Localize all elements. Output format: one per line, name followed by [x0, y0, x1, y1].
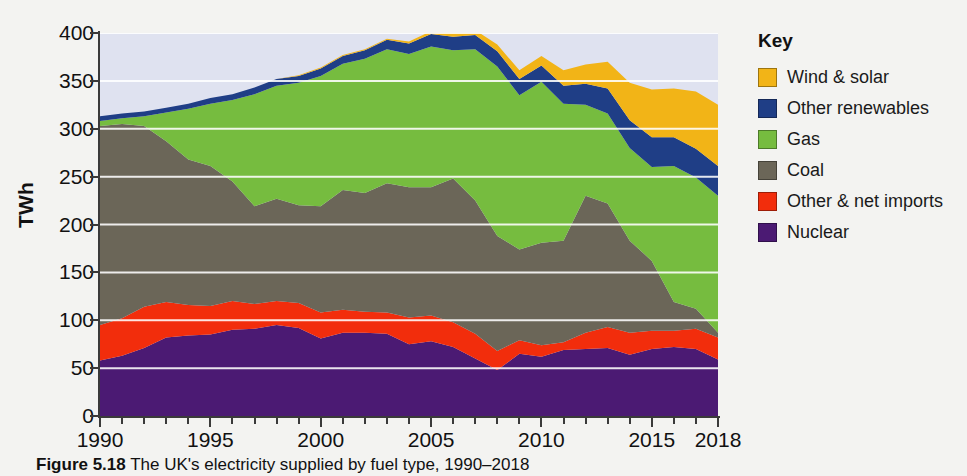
x-tickmark-2008	[496, 418, 498, 424]
y-tickmark-50	[90, 367, 99, 369]
x-tickmark-2013	[607, 418, 609, 424]
legend-item-other-net-imports: Other & net imports	[758, 186, 963, 217]
y-tickmark-200	[90, 224, 99, 226]
x-tickmark-2006	[452, 418, 454, 424]
x-tickmark-2001	[342, 418, 344, 424]
y-tick-250: 250	[36, 165, 94, 189]
x-tickmark-1991	[121, 418, 123, 424]
x-tickmark-1999	[298, 418, 300, 424]
legend-title: Key	[758, 30, 963, 52]
legend-item-coal: Coal	[758, 155, 963, 186]
y-tickmark-150	[90, 271, 99, 273]
x-tickmark-2005	[430, 418, 432, 427]
x-tickmark-2012	[585, 418, 587, 424]
y-tickmark-100	[90, 319, 99, 321]
x-tick-2018: 2018	[695, 428, 742, 452]
legend-swatch-icon	[758, 99, 777, 118]
figure-number: Figure 5.18	[36, 455, 126, 474]
x-tickmark-2015	[651, 418, 653, 427]
x-tickmark-2009	[518, 418, 520, 424]
y-tickmark-0	[90, 415, 99, 417]
x-tickmark-2016	[673, 418, 675, 424]
legend-swatch-icon	[758, 161, 777, 180]
x-tick-1990: 1990	[77, 428, 124, 452]
y-tickmark-400	[90, 32, 99, 34]
x-tickmark-1993	[165, 418, 167, 424]
legend-item-gas: Gas	[758, 124, 963, 155]
chart-legend: Key Wind & solarOther renewablesGasCoalO…	[758, 30, 963, 248]
x-tickmark-1995	[209, 418, 211, 427]
x-tick-1995: 1995	[187, 428, 234, 452]
y-tick-200: 200	[36, 213, 94, 237]
x-tickmark-2007	[474, 418, 476, 424]
x-tickmark-1997	[254, 418, 256, 424]
legend-swatch-icon	[758, 223, 777, 242]
figure-container: TWh 050100150200250300350400 19901995200…	[0, 0, 967, 476]
x-tickmark-2011	[563, 418, 565, 424]
x-tick-2015: 2015	[628, 428, 675, 452]
x-tickmark-2010	[540, 418, 542, 427]
x-tickmark-2017	[695, 418, 697, 424]
x-tick-2000: 2000	[297, 428, 344, 452]
legend-item-label: Coal	[787, 160, 824, 181]
figure-caption-text: The UK's electricity supplied by fuel ty…	[126, 455, 530, 474]
x-tickmark-1996	[231, 418, 233, 424]
legend-swatch-icon	[758, 130, 777, 149]
x-tickmark-2004	[408, 418, 410, 424]
y-tick-400: 400	[36, 21, 94, 45]
x-tickmark-1990	[99, 418, 101, 427]
legend-item-wind-solar: Wind & solar	[758, 62, 963, 93]
y-tick-350: 350	[36, 69, 94, 93]
legend-swatch-icon	[758, 192, 777, 211]
y-tickmark-350	[90, 80, 99, 82]
y-tickmark-300	[90, 128, 99, 130]
y-tick-50: 50	[36, 356, 94, 380]
x-tick-2005: 2005	[408, 428, 455, 452]
legend-item-other-renewables: Other renewables	[758, 93, 963, 124]
x-tickmark-2002	[364, 418, 366, 424]
x-tickmark-1994	[187, 418, 189, 424]
legend-item-label: Wind & solar	[787, 67, 889, 88]
y-axis-label: TWh	[14, 188, 38, 228]
x-tickmark-2003	[386, 418, 388, 424]
plot-area	[100, 33, 718, 416]
y-tickmark-250	[90, 176, 99, 178]
legend-swatch-icon	[758, 68, 777, 87]
y-tick-300: 300	[36, 117, 94, 141]
x-tickmark-1998	[276, 418, 278, 424]
x-tickmark-2000	[320, 418, 322, 427]
x-tick-2010: 2010	[518, 428, 565, 452]
x-tickmark-2018	[717, 418, 719, 427]
x-tickmark-2014	[629, 418, 631, 424]
legend-item-label: Other renewables	[787, 98, 929, 119]
y-tick-100: 100	[36, 308, 94, 332]
legend-item-label: Gas	[787, 129, 820, 150]
legend-item-label: Other & net imports	[787, 191, 943, 212]
y-axis-tick-labels: 050100150200250300350400	[36, 24, 94, 416]
y-tick-0: 0	[36, 404, 94, 428]
x-tickmark-1992	[143, 418, 145, 424]
legend-item-label: Nuclear	[787, 222, 849, 243]
stacked-area-chart: TWh 050100150200250300350400 19901995200…	[0, 0, 967, 476]
legend-item-nuclear: Nuclear	[758, 217, 963, 248]
y-tick-150: 150	[36, 260, 94, 284]
figure-caption: Figure 5.18 The UK's electricity supplie…	[36, 455, 529, 475]
legend-items: Wind & solarOther renewablesGasCoalOther…	[758, 62, 963, 248]
area-series-svg	[100, 33, 718, 416]
